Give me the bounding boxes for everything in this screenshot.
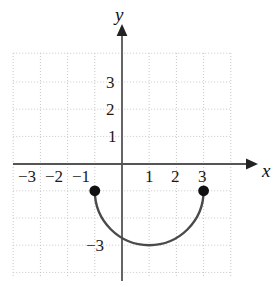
x-axis-label: x — [262, 161, 270, 180]
x-tick-label-2: 2 — [171, 168, 180, 185]
y-axis — [117, 24, 128, 281]
coordinate-plane-svg — [0, 0, 275, 287]
y-axis-label: y — [115, 5, 123, 24]
x-tick-label-1: 1 — [145, 168, 154, 185]
x-tick-label--2: −2 — [45, 168, 63, 185]
y-tick-label-2: 2 — [106, 101, 115, 118]
left-endpoint-dot — [89, 185, 100, 196]
x-tick-label--1: −1 — [72, 168, 90, 185]
y-tick-label-3: 3 — [106, 74, 115, 91]
y-tick-label-1: 1 — [108, 128, 117, 145]
graph-figure: y x −3 −2 −1 1 2 3 3 2 1 −3 — [0, 0, 275, 287]
right-endpoint-dot — [198, 185, 209, 196]
x-tick-label-3: 3 — [198, 168, 207, 185]
x-tick-label--3: −3 — [18, 168, 36, 185]
y-tick-label--3: −3 — [86, 237, 104, 254]
